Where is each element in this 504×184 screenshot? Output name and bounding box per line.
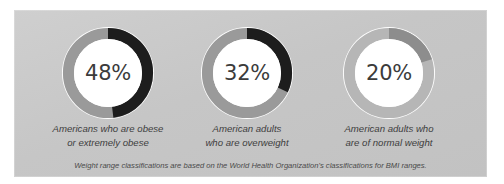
caption-obese: Americans who are obese or extremely obe… [29, 122, 187, 150]
donut-svg-overweight [201, 27, 293, 119]
donut-svg-obese [62, 27, 154, 119]
caption-overweight-line-1: American adults [168, 122, 326, 136]
footnote-text: Weight range classifications are based o… [14, 160, 487, 171]
infographic-card: 48% 32% 20 [14, 10, 487, 177]
caption-obese-line-2: or extremely obese [29, 136, 187, 150]
caption-normal-weight-line-2: are of normal weight [310, 136, 468, 150]
donut-chart-normal-weight: 20% [310, 10, 468, 123]
donut-chart-row: 48% 32% 20 [14, 10, 487, 123]
caption-obese-line-1: Americans who are obese [29, 122, 187, 136]
donut-ring-normal-weight: 20% [343, 27, 435, 119]
donut-chart-obese: 48% [29, 10, 187, 123]
caption-overweight: American adults who are overweight [168, 122, 326, 150]
donut-chart-overweight: 32% [168, 10, 326, 123]
donut-ring-overweight: 32% [201, 27, 293, 119]
caption-row: Americans who are obese or extremely obe… [14, 122, 487, 158]
donut-ring-obese: 48% [62, 27, 154, 119]
caption-normal-weight: American adults who are of normal weight [310, 122, 468, 150]
donut-svg-normal-weight [343, 27, 435, 119]
caption-overweight-line-2: who are overweight [168, 136, 326, 150]
caption-normal-weight-line-1: American adults who [310, 122, 468, 136]
